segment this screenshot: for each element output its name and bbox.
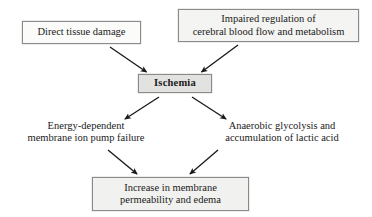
edge-ischemia-to-anaerobic bbox=[192, 97, 226, 119]
edge-energy-to-increase bbox=[108, 150, 137, 174]
edge-anaerobic-to-increase bbox=[190, 150, 218, 174]
node-increase-permeability: Increase in membrane permeability and ed… bbox=[92, 177, 249, 211]
node-anaerobic-glycolysis: Anaerobic glycolysis and accumulation of… bbox=[202, 118, 362, 146]
node-increase-permeability-label: Increase in membrane permeability and ed… bbox=[120, 182, 221, 207]
edge-direct-to-ischemia bbox=[110, 47, 147, 72]
node-anaerobic-glycolysis-label: Anaerobic glycolysis and accumulation of… bbox=[225, 120, 338, 145]
node-energy-dependent: Energy-dependent membrane ion pump failu… bbox=[12, 118, 160, 146]
node-ischemia: Ischemia bbox=[138, 74, 212, 93]
node-impaired-regulation-label: Impaired regulation of cerebral blood fl… bbox=[193, 13, 345, 38]
node-direct-tissue-damage: Direct tissue damage bbox=[22, 21, 141, 44]
node-impaired-regulation: Impaired regulation of cerebral blood fl… bbox=[178, 9, 359, 42]
node-ischemia-label: Ischemia bbox=[154, 77, 196, 89]
node-energy-dependent-label: Energy-dependent membrane ion pump failu… bbox=[28, 120, 145, 145]
flowchart-diagram: Direct tissue damage Impaired regulation… bbox=[0, 0, 372, 217]
edge-impaired-to-ischemia bbox=[202, 45, 239, 72]
node-direct-tissue-damage-label: Direct tissue damage bbox=[37, 26, 125, 38]
edge-ischemia-to-energy bbox=[125, 97, 159, 119]
